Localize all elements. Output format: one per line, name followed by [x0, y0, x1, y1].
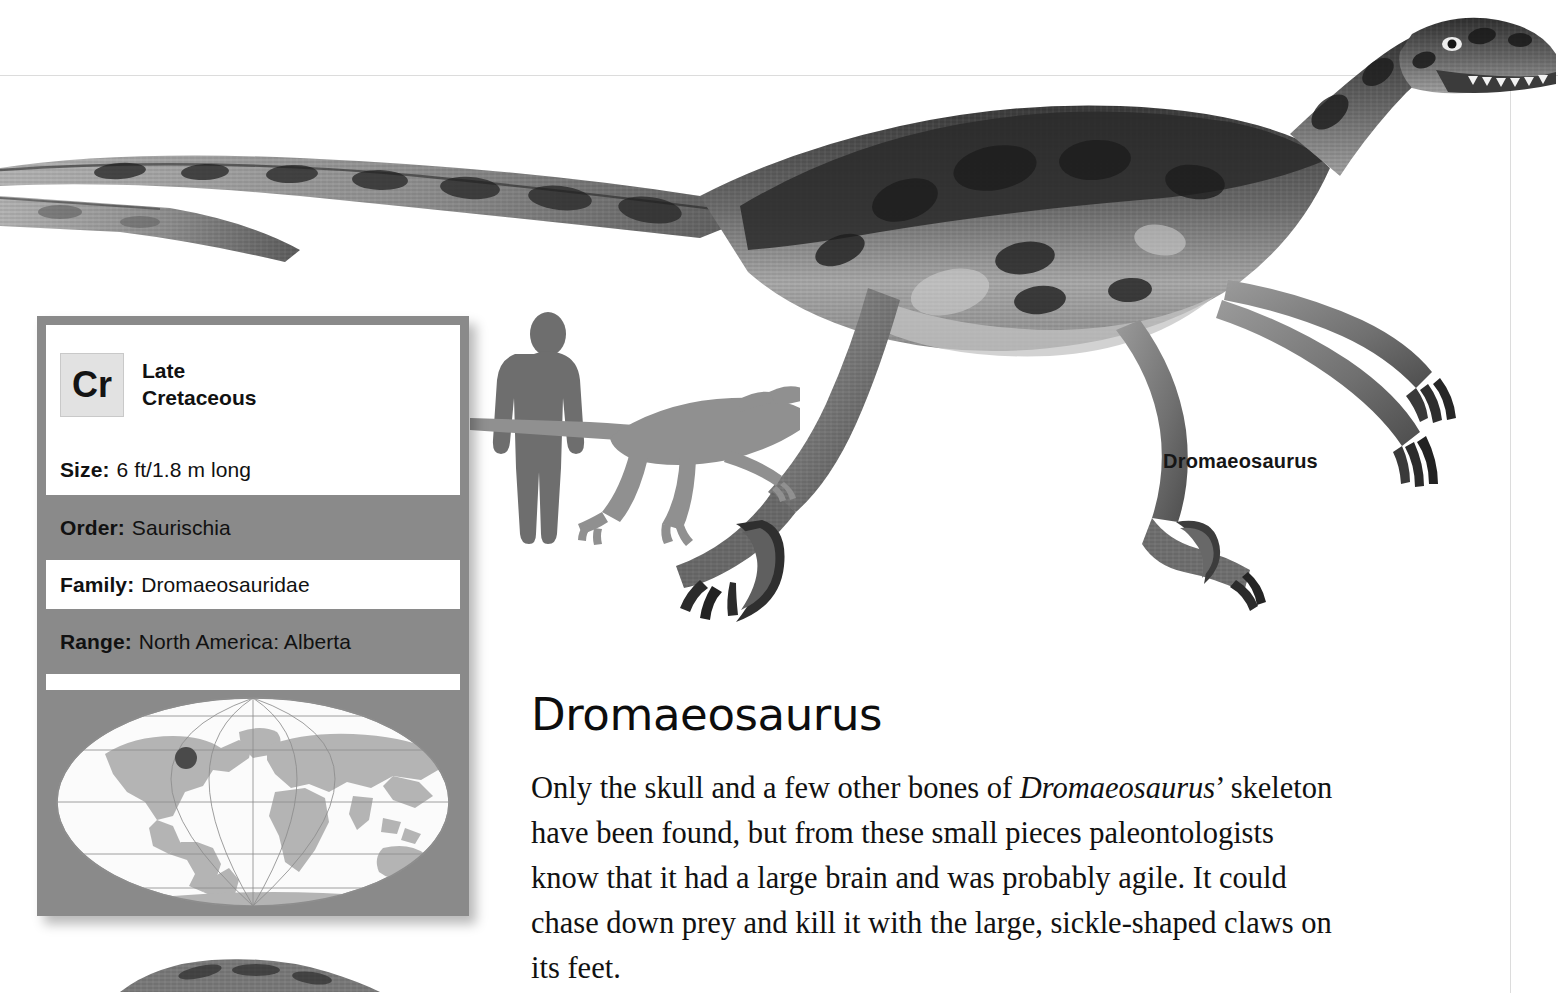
- info-row-size: Size: 6 ft/1.8 m long: [46, 445, 460, 495]
- row-separator: [46, 495, 460, 503]
- row-separator: [46, 666, 460, 674]
- info-value-order: Saurischia: [132, 516, 231, 540]
- forelimb-upper: [1224, 280, 1456, 423]
- secondary-tail: [0, 196, 300, 262]
- map-marker-icon: [175, 747, 197, 769]
- info-row-range: Range: North America: Alberta: [46, 617, 460, 666]
- info-row-order: Order: Saurischia: [46, 503, 460, 552]
- row-separator: [46, 552, 460, 560]
- info-label-size: Size:: [60, 458, 110, 482]
- info-value-size: 6 ft/1.8 m long: [117, 458, 252, 482]
- page-canvas: Cr Late Cretaceous Size: 6 ft/1.8 m long…: [0, 0, 1558, 993]
- row-separator: [46, 609, 460, 617]
- article-paragraph: Only the skull and a few other bones of …: [531, 766, 1341, 991]
- info-label-family: Family:: [60, 573, 134, 597]
- species-info-panel: Cr Late Cretaceous Size: 6 ft/1.8 m long…: [37, 316, 469, 916]
- head: [1399, 18, 1556, 93]
- world-map-icon: [46, 690, 460, 906]
- paragraph-lead: Only the skull and a few other bones of: [531, 771, 1020, 805]
- genus-italic: Dromaeosaurus: [1020, 771, 1215, 805]
- info-label-order: Order:: [60, 516, 125, 540]
- next-figure-partial-icon: [60, 938, 400, 993]
- info-row-family: Family: Dromaeosauridae: [46, 560, 460, 609]
- period-row: Cr Late Cretaceous: [46, 325, 460, 445]
- info-value-range: North America: Alberta: [139, 630, 351, 654]
- period-badge-icon: Cr: [60, 353, 124, 417]
- period-epoch: Late: [142, 358, 256, 385]
- period-label: Late Cretaceous: [142, 358, 256, 412]
- period-name: Cretaceous: [142, 385, 256, 412]
- page-title: Dromaeosaurus: [531, 688, 882, 741]
- scale-comparison-icon: [470, 300, 800, 640]
- info-value-family: Dromaeosauridae: [141, 573, 309, 597]
- info-label-range: Range:: [60, 630, 132, 654]
- illustration-caption: Dromaeosaurus: [1163, 450, 1318, 473]
